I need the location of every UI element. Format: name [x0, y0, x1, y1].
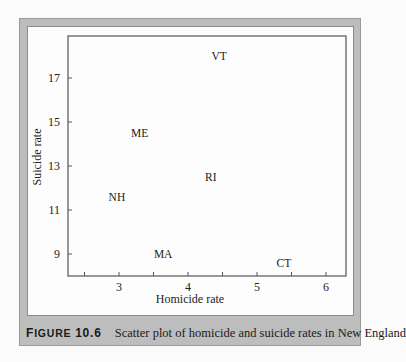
plot-area — [68, 36, 346, 276]
figure-label-rest: IGURE — [34, 327, 71, 339]
x-tick-label: 3 — [116, 280, 122, 294]
data-point-label: VT — [211, 50, 226, 62]
figure-number: 10.6 — [75, 326, 102, 340]
data-point-label: NH — [109, 191, 126, 203]
y-tick-label: 15 — [48, 115, 60, 129]
data-points: VTMERINHMACT — [109, 50, 292, 269]
x-tick-label: 5 — [254, 280, 260, 294]
y-tick-label: 17 — [48, 71, 60, 85]
y-tick-label: 13 — [48, 159, 60, 173]
figure-label-initial: F — [26, 326, 34, 340]
y-tick-label: 9 — [54, 247, 60, 261]
y-tick-label: 11 — [48, 203, 60, 217]
x-axis-label: Homicide rate — [156, 292, 224, 306]
data-point-label: RI — [205, 171, 217, 183]
data-point-label: CT — [277, 257, 292, 269]
y-axis-label: Suicide rate — [30, 129, 44, 186]
x-tick-label: 6 — [323, 280, 329, 294]
x-axis-ticks: 3456 — [85, 272, 330, 294]
data-point-label: ME — [131, 127, 148, 139]
figure-caption: FIGURE 10.6 Scatter plot of homicide and… — [26, 325, 406, 341]
data-point-label: MA — [154, 248, 173, 260]
caption-text: Scatter plot of homicide and suicide rat… — [115, 326, 406, 340]
figure-label: FIGURE 10.6 — [26, 327, 102, 339]
